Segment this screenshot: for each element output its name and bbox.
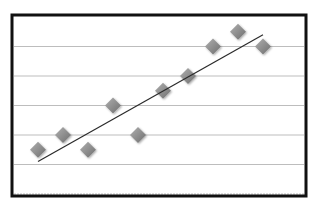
scatter-chart <box>0 0 328 210</box>
chart-canvas <box>0 0 328 210</box>
